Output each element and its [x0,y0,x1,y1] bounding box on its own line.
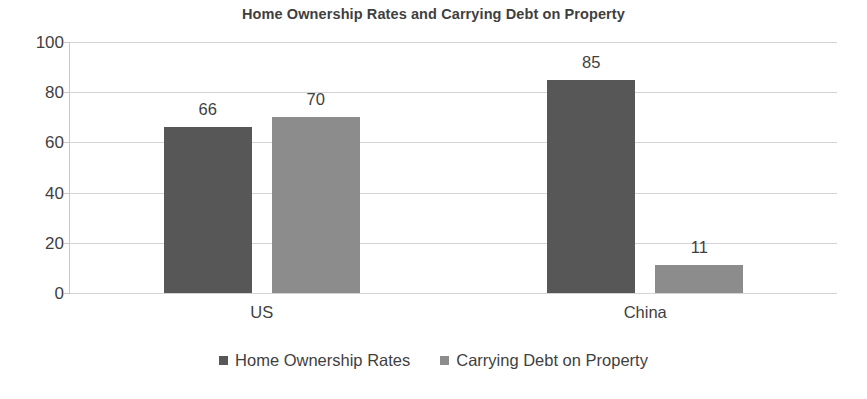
bar [272,117,360,293]
bar-value-label: 70 [307,91,325,108]
y-axis-tick-label: 60 [2,134,64,151]
plot-area [70,42,837,293]
y-axis-tick-label: 80 [2,84,64,101]
bar [164,127,252,293]
y-axis-tick-label: 20 [2,234,64,251]
chart-title: Home Ownership Rates and Carrying Debt o… [0,6,867,22]
gridline [70,92,837,93]
legend-label: Home Ownership Rates [235,352,410,369]
bar-value-label: 66 [199,101,217,118]
legend-label: Carrying Debt on Property [456,352,648,369]
gridline [70,42,837,43]
bar-value-label: 11 [691,239,708,256]
y-axis: 020406080100 [0,0,64,399]
y-axis-tick-label: 0 [2,285,64,302]
chart-legend: Home Ownership RatesCarrying Debt on Pro… [0,352,867,369]
legend-item[interactable]: Home Ownership Rates [219,352,410,369]
bar [655,265,743,293]
legend-swatch-icon [440,356,449,365]
bar [547,80,635,293]
chart-container: Home Ownership Rates and Carrying Debt o… [0,0,867,399]
bar-value-label: 85 [582,54,600,71]
x-axis-category-label: US [250,303,273,322]
x-axis-category-label: China [624,303,667,322]
y-axis-tick-label: 40 [2,184,64,201]
gridline [70,293,837,294]
legend-swatch-icon [219,356,228,365]
y-axis-tick-label: 100 [2,34,64,51]
legend-item[interactable]: Carrying Debt on Property [440,352,648,369]
